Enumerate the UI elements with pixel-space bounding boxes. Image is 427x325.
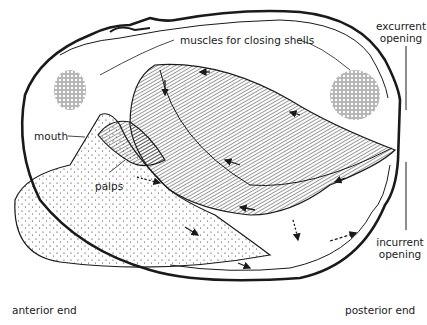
label-muscles: muscles for closing shells bbox=[180, 34, 314, 46]
label-incurrent-line2: opening bbox=[370, 248, 427, 260]
label-incurrent-line1: incurrent bbox=[370, 236, 427, 248]
label-mouth: mouth bbox=[34, 130, 68, 142]
label-excurrent-line1: excurrent bbox=[372, 20, 427, 32]
anterior-muscle bbox=[54, 70, 86, 110]
label-anterior-end: anterior end bbox=[12, 304, 77, 316]
label-palps: palps bbox=[95, 180, 123, 192]
label-posterior-end: posterior end bbox=[345, 304, 415, 316]
posterior-muscle bbox=[330, 70, 380, 120]
clam-diagram: muscles for closing shells excurrent ope… bbox=[0, 0, 427, 325]
label-excurrent-line2: opening bbox=[372, 32, 427, 44]
